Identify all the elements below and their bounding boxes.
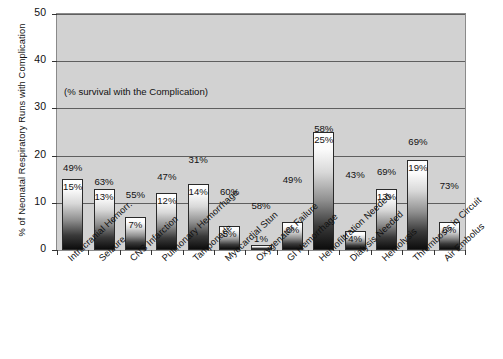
survival-value-label: 31% [183, 154, 213, 165]
survival-value-label: 69% [372, 166, 402, 177]
x-tick [245, 250, 246, 255]
survival-value-label: 49% [58, 162, 88, 173]
gridline-30 [57, 108, 465, 109]
gridline-50 [57, 14, 465, 15]
survival-value-label: 69% [403, 136, 433, 147]
y-tick-label-50: 50 [12, 6, 46, 18]
survival-value-label: 43% [340, 169, 370, 180]
bar-value-label: 25% [312, 134, 335, 145]
survival-value-label: 58% [309, 123, 339, 134]
x-tick [151, 250, 152, 255]
x-tick [402, 250, 403, 255]
x-tick [120, 250, 121, 255]
y-tick-20 [52, 156, 57, 157]
survival-value-label: 49% [277, 174, 307, 185]
y-tick-10 [52, 203, 57, 204]
y-tick-30 [52, 108, 57, 109]
bar-value-label: 13% [93, 191, 116, 202]
y-tick-label-30: 30 [12, 100, 46, 112]
survival-annotation: (% survival with the Complication) [64, 86, 208, 97]
bar-value-label: 7% [124, 219, 147, 230]
y-tick-label-10: 10 [12, 195, 46, 207]
gridline-20 [57, 156, 465, 157]
x-tick [434, 250, 435, 255]
survival-value-label: 47% [152, 171, 182, 182]
bar-value-label: 12% [155, 195, 178, 206]
bar-value-label: 14% [187, 186, 210, 197]
y-tick-50 [52, 14, 57, 15]
survival-value-label: 55% [120, 189, 150, 200]
y-tick-40 [52, 61, 57, 62]
bar-value-label: 15% [61, 181, 84, 192]
x-tick [371, 250, 372, 255]
x-tick [465, 250, 466, 255]
x-tick [57, 250, 58, 255]
x-tick [214, 250, 215, 255]
x-tick [308, 250, 309, 255]
x-tick [277, 250, 278, 255]
gridline-40 [57, 61, 465, 62]
x-tick [339, 250, 340, 255]
bar-chart-figure: % of Neonatal Respiratory Runs with Comp… [0, 0, 503, 359]
y-tick-label-20: 20 [12, 148, 46, 160]
y-tick-label-0: 0 [12, 242, 46, 254]
bar-value-label: 19% [406, 162, 429, 173]
x-tick [183, 250, 184, 255]
y-tick-label-40: 40 [12, 53, 46, 65]
y-axis-title: % of Neonatal Respiratory Runs with Comp… [17, 5, 31, 255]
survival-value-label: 73% [434, 180, 464, 191]
x-tick [88, 250, 89, 255]
survival-value-label: 63% [89, 176, 119, 187]
